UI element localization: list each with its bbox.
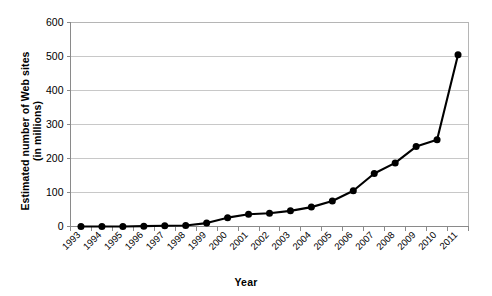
y-tick-label-400: 400 xyxy=(46,84,64,96)
x-tick-label-1994: 1994 xyxy=(81,229,104,252)
data-point-2009 xyxy=(413,143,420,150)
x-tick-label-1995: 1995 xyxy=(102,229,125,252)
data-point-2003 xyxy=(287,207,294,214)
x-tick-label-2011: 2011 xyxy=(437,229,459,251)
data-point-2002 xyxy=(266,210,273,217)
x-tick-label-2007: 2007 xyxy=(353,229,376,252)
x-tick-label-1993: 1993 xyxy=(60,229,83,252)
data-point-2000 xyxy=(224,214,231,221)
x-tick-label-1998: 1998 xyxy=(164,229,187,252)
web-sites-line-chart: Estimated number of Web sites (in millio… xyxy=(0,0,492,296)
plot-area: 0100200300400500600 19931994199519961997… xyxy=(0,0,492,296)
x-tick-labels: 1993199419951996199719981999200020012002… xyxy=(60,229,460,252)
x-tick-label-2010: 2010 xyxy=(416,229,439,252)
x-tick-label-2005: 2005 xyxy=(311,229,334,252)
y-tick-label-0: 0 xyxy=(58,220,64,232)
x-tick-label-2003: 2003 xyxy=(269,229,292,252)
x-tick-label-2009: 2009 xyxy=(395,229,418,252)
data-point-2011 xyxy=(455,51,462,58)
data-point-1999 xyxy=(203,220,210,227)
x-tick-label-1997: 1997 xyxy=(143,229,166,252)
data-point-2006 xyxy=(350,187,357,194)
gridlines xyxy=(71,23,469,193)
x-tick-label-2006: 2006 xyxy=(332,229,355,252)
data-point-1998 xyxy=(182,222,189,229)
data-markers xyxy=(77,51,461,230)
data-point-1997 xyxy=(161,222,168,229)
x-tick-label-2000: 2000 xyxy=(206,229,229,252)
data-point-2007 xyxy=(371,170,378,177)
data-point-2008 xyxy=(392,159,399,166)
y-tick-labels: 0100200300400500600 xyxy=(46,16,71,232)
x-tick-label-1999: 1999 xyxy=(185,229,208,252)
y-tick-label-100: 100 xyxy=(46,186,64,198)
data-point-2010 xyxy=(434,136,441,143)
y-tick-label-500: 500 xyxy=(46,50,64,62)
data-point-1993 xyxy=(77,223,84,230)
data-point-1994 xyxy=(98,223,105,230)
x-tick-label-2004: 2004 xyxy=(290,229,313,252)
x-tick-label-2008: 2008 xyxy=(374,229,397,252)
x-tick-label-2002: 2002 xyxy=(248,229,271,252)
y-tick-label-600: 600 xyxy=(46,16,64,28)
data-point-2005 xyxy=(329,198,336,205)
x-tick-label-2001: 2001 xyxy=(227,229,250,252)
y-tick-label-200: 200 xyxy=(46,152,64,164)
y-tick-label-300: 300 xyxy=(46,118,64,130)
data-point-1995 xyxy=(119,223,126,230)
x-axis-title: Year xyxy=(0,276,492,288)
data-point-2001 xyxy=(245,211,252,218)
x-tick-label-1996: 1996 xyxy=(123,229,146,252)
data-point-2004 xyxy=(308,204,315,211)
data-point-1996 xyxy=(140,223,147,230)
data-line-web-sites xyxy=(81,55,458,227)
